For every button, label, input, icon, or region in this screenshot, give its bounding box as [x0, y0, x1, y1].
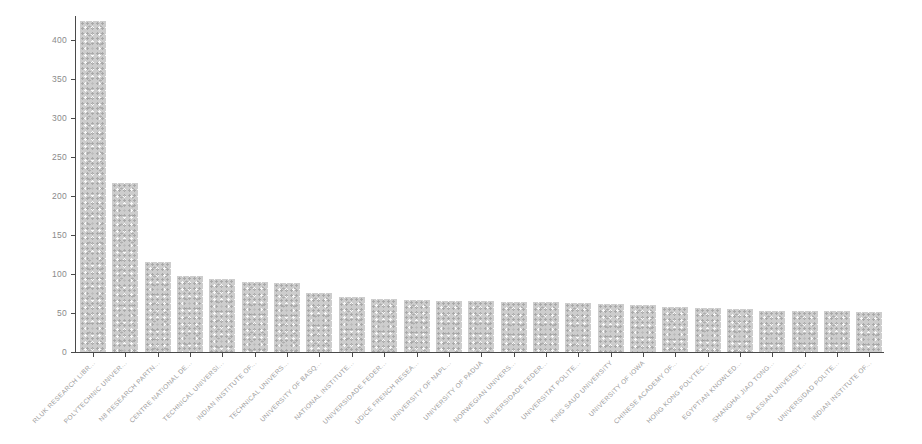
y-tick-label: 50	[37, 308, 67, 318]
x-tick-mark	[837, 353, 838, 357]
bar	[306, 293, 332, 352]
bar	[695, 308, 721, 352]
x-tick-mark	[740, 353, 741, 357]
bar	[792, 311, 818, 352]
y-tick-label: 200	[37, 191, 67, 201]
bar	[145, 262, 171, 352]
bar	[565, 303, 591, 352]
x-category-label: CHINESE ACADEMY OF...	[612, 359, 678, 425]
x-category-label: UNIVERSITY OF IOWA	[587, 359, 646, 418]
x-category-label: UNIVERSIDAD POLITE...	[776, 359, 840, 423]
y-tick-label: 400	[37, 35, 67, 45]
bar	[856, 312, 882, 352]
x-tick-mark	[578, 353, 579, 357]
y-tick-label: 0	[37, 347, 67, 357]
x-category-label: SALESIAN UNIVERSIT...	[745, 359, 807, 421]
x-tick-mark	[675, 353, 676, 357]
x-category-label: INDIAN INSTITUTE OF...	[195, 359, 258, 422]
x-tick-mark	[772, 353, 773, 357]
x-tick-mark	[319, 353, 320, 357]
bar	[468, 301, 494, 352]
x-category-label: UNIVERSIDADE FEDER...	[321, 359, 387, 425]
x-category-label: TECHNICAL UNIVERS...	[228, 359, 290, 421]
bar	[598, 304, 624, 352]
bar	[177, 276, 203, 352]
y-tick-mark	[71, 352, 75, 353]
bar	[501, 302, 527, 352]
x-category-label: N8 RESEARCH PARTN...	[97, 359, 161, 423]
bar	[371, 299, 397, 352]
x-category-label: UNIVERSITY OF NAPL...	[389, 359, 452, 422]
x-category-label: SHANGHAI JIAO TONG...	[711, 359, 776, 424]
bar	[759, 311, 785, 352]
x-tick-mark	[869, 353, 870, 357]
x-category-label: POLYTECHNIC UNIVER...	[63, 359, 129, 425]
x-category-label: INDIAN INSTITUTE OF...	[810, 359, 873, 422]
x-tick-mark	[805, 353, 806, 357]
y-tick-mark	[71, 118, 75, 119]
x-tick-mark	[384, 353, 385, 357]
x-category-label: KING SAUD UNIVERSITY	[549, 359, 614, 424]
x-axis-line	[75, 352, 884, 353]
y-tick-mark	[71, 196, 75, 197]
x-tick-mark	[514, 353, 515, 357]
bar	[436, 301, 462, 352]
x-category-label: CENTRE NATIONAL DE...	[128, 359, 193, 424]
y-tick-label: 300	[37, 113, 67, 123]
bar	[533, 302, 559, 352]
x-category-label: RLUK RESEARCH LIBR...	[31, 359, 96, 424]
x-tick-mark	[481, 353, 482, 357]
x-tick-mark	[190, 353, 191, 357]
x-category-label: UNIVERSIDADE FEDER...	[483, 359, 549, 425]
x-tick-mark	[287, 353, 288, 357]
bar	[339, 297, 365, 352]
bar-chart: 050100150200250300350400RLUK RESEARCH LI…	[0, 0, 922, 444]
x-category-label: UNIVERSITY OF PADUA	[422, 359, 484, 421]
x-category-label: HONG KONG POLYTEC...	[645, 359, 711, 425]
x-tick-mark	[222, 353, 223, 357]
x-category-label: NORWEGIAN UNIVERS...	[451, 359, 516, 424]
y-tick-mark	[71, 313, 75, 314]
x-category-label: NATIONAL INSTITUTE...	[293, 359, 355, 421]
bar	[80, 21, 106, 352]
bar	[112, 183, 138, 352]
x-tick-mark	[352, 353, 353, 357]
y-tick-label: 100	[37, 269, 67, 279]
y-tick-label: 350	[37, 74, 67, 84]
y-tick-mark	[71, 274, 75, 275]
x-tick-mark	[417, 353, 418, 357]
x-category-label: UNIVERSITY OF BASQ...	[258, 359, 322, 423]
bar	[630, 305, 656, 352]
x-category-label: EGYPTIAN KNOWLED...	[681, 359, 743, 421]
x-tick-mark	[125, 353, 126, 357]
x-tick-mark	[255, 353, 256, 357]
y-tick-label: 250	[37, 152, 67, 162]
x-category-label: TECHNICAL UNIVERSI...	[162, 359, 226, 423]
x-tick-mark	[449, 353, 450, 357]
x-tick-mark	[708, 353, 709, 357]
x-category-label: UNIVERSITAT POLITE...	[519, 359, 581, 421]
y-tick-mark	[71, 235, 75, 236]
y-tick-mark	[71, 40, 75, 41]
y-tick-label: 150	[37, 230, 67, 240]
x-tick-mark	[643, 353, 644, 357]
bar	[404, 300, 430, 352]
bar	[274, 283, 300, 352]
bar	[727, 309, 753, 352]
x-tick-mark	[546, 353, 547, 357]
bar	[209, 279, 235, 352]
y-axis-line	[75, 16, 76, 353]
x-tick-mark	[611, 353, 612, 357]
x-category-label: UDICE FRENCH RESEA...	[353, 359, 419, 425]
bar	[824, 311, 850, 352]
y-tick-mark	[71, 157, 75, 158]
bar	[242, 282, 268, 352]
bar	[662, 307, 688, 352]
x-tick-mark	[93, 353, 94, 357]
y-tick-mark	[71, 79, 75, 80]
x-tick-mark	[158, 353, 159, 357]
